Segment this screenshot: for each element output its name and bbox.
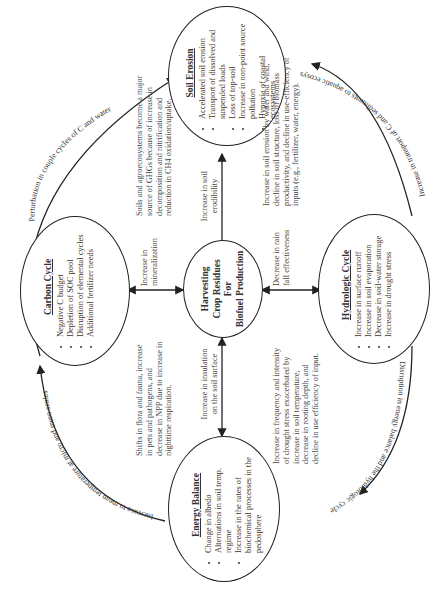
node-items: Increase in surface runoff Increase in s… [354,223,394,347]
node-items: Negative C budget Depletion of SOC pool … [56,227,96,347]
center-line: For [223,251,235,328]
center-line: Biofuel Production [235,251,247,328]
node-energy-balance: Energy Balance Change in albedo Alternat… [168,436,280,582]
node-title: Energy Balance [191,447,201,563]
note-carbon-soil: Soils and agroecosystems become a major … [135,74,174,216]
arc-label-hydro-to-energy: Disruption in energy balance and the hyd… [328,361,407,516]
node-item: Negative C budget [56,227,66,337]
node-center-harvesting: Harvesting Crop Residues For Biofuel Pro… [183,240,263,338]
node-item: Increase in the rates of biochemical pro… [234,447,264,553]
arc-label-carbon-to-soil: Perturbation in couple cycles of C and w… [27,104,112,222]
node-title: Soil Erosion [185,17,195,129]
node-item: Increase in non-point source pollution [238,17,258,119]
node-item: Disruption of elemental cycles [76,227,86,337]
node-item: Increase in drought stress [384,223,394,337]
node-item: Increase in soil evaporation [364,223,374,337]
diagram-canvas: Perturbation in couple cycles of C and w… [0,0,440,616]
node-item: Alternations in soil temp. regime [214,447,234,553]
node-item: Depletion of SOC pool [66,227,76,337]
node-item: Change in albedo [204,447,214,553]
node-carbon-cycle: Carbon Cycle Negative C budget Depletion… [20,216,130,366]
edge-label-to-carbon: Increase in mineralization [140,226,160,286]
node-item: Transport of dissolved and suspended loa… [208,17,228,119]
node-item: Decrease in soil-water storage [374,223,384,337]
node-title: Carbon Cycle [43,227,53,347]
node-item: Accelerated soil erosion [198,17,208,119]
note-hydro-soil: Increase in soil erosion by water and wi… [262,56,301,206]
node-item: Additional fertilizer needs [86,227,96,337]
node-item: Increase in surface runoff [354,223,364,337]
note-hydro-energy: Increase in frequency and intensity of d… [272,340,321,464]
edge-label-to-soil: Increase in soil erodibility [200,166,220,226]
center-line: Crop Residues [212,251,224,328]
center-line: Harvesting [200,251,212,328]
note-carbon-energy: Shifts in flora and fauna, increase in p… [135,340,174,456]
edge-label-to-hydro: Decrease in rain fall effectiveness [272,224,292,286]
node-title: Hydrologic Cycle [341,223,351,347]
node-item: Loss of top-soil [228,17,238,119]
edge-label-to-energy: Increase in insulation on the soil surfa… [200,344,220,424]
node-hydrologic-cycle: Hydrologic Cycle Increase in surface run… [318,214,430,364]
node-items: Change in albedo Alternations in soil te… [204,447,264,563]
